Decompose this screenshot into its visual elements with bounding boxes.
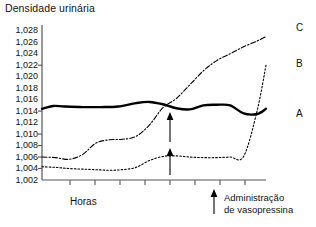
series-label-b: B [296,58,303,69]
series-label-a: A [296,108,303,119]
series-label-c: C [296,22,303,33]
annotations-group [167,112,218,214]
vasopressin-annotation-line1: Administração [224,192,284,203]
series-line-c [42,36,266,159]
in-plot-arrow-upper [167,112,174,142]
chart-root: Densidade urinária 1,0281,0261,0241,0221… [0,0,316,227]
in-plot-arrow-lower [167,148,174,175]
vasopressin-annotation-line2: de vasopressina [224,204,293,215]
data-series-group [42,36,266,170]
series-line-a [42,102,266,115]
vasopressin-arrow [211,189,218,214]
series-line-b [42,65,266,170]
x-axis-ticks [70,180,245,185]
x-axis-title: Horas [70,196,97,207]
